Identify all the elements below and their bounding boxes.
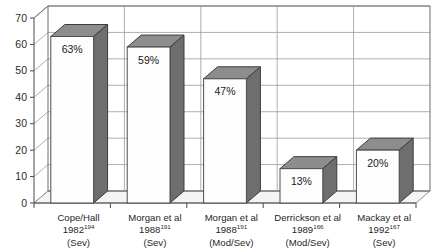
x-axis-label-reference: 191 xyxy=(160,223,171,230)
y-tick-label: 40 xyxy=(15,91,27,103)
gridline-depth xyxy=(34,85,48,97)
y-tick-label: 0 xyxy=(21,197,27,209)
x-axis-label-severity: (Sev) xyxy=(373,237,396,248)
y-tick-label: 70 xyxy=(15,12,27,24)
x-axis-label-author: Derrickson et al xyxy=(274,212,341,223)
bar-data-label: 59% xyxy=(138,54,159,66)
y-tick-label: 30 xyxy=(15,117,27,129)
x-axis-label-author: Cope/Hall xyxy=(57,212,99,223)
bar-data-label: 20% xyxy=(367,157,388,169)
x-axis-label-severity: (Mod/Sev) xyxy=(209,237,253,248)
bar-front-face xyxy=(127,47,170,203)
x-axis-label-severity: (Mod/Sev) xyxy=(286,237,330,248)
bar-group: 13% xyxy=(280,157,337,203)
gridline-depth xyxy=(34,138,48,150)
bar-side-face xyxy=(94,25,108,204)
x-axis-label-reference: 166 xyxy=(313,223,324,230)
bar-side-face xyxy=(399,138,413,203)
bar-data-label: 63% xyxy=(62,43,83,55)
bar-side-face xyxy=(246,67,260,203)
x-axis-label-reference: 167 xyxy=(390,223,401,230)
gridline-depth xyxy=(34,32,48,44)
bar-chart: 01020304050607063%Cope/Hall1982194(Sev)5… xyxy=(0,0,440,252)
bar-front-face xyxy=(51,37,94,204)
wall-edge-top xyxy=(34,6,48,18)
y-tick-label: 20 xyxy=(15,144,27,156)
x-axis-label-author: Mackay et al xyxy=(357,212,411,223)
chart-canvas: 01020304050607063%Cope/Hall1982194(Sev)5… xyxy=(0,0,440,252)
gridline-depth xyxy=(34,59,48,71)
y-tick-label: 10 xyxy=(15,170,27,182)
bar-data-label: 47% xyxy=(214,85,235,97)
x-axis-label-author: Morgan et al xyxy=(205,212,258,223)
bar-group: 20% xyxy=(356,138,413,203)
x-axis-label-year: 1988191 xyxy=(215,223,247,235)
bar-group: 63% xyxy=(51,25,108,204)
bar-group: 47% xyxy=(204,67,261,203)
x-axis-label-year: 1982194 xyxy=(63,223,95,235)
x-axis-label-year: 1992167 xyxy=(368,223,400,235)
x-axis-label-reference: 191 xyxy=(237,223,248,230)
bar-group: 59% xyxy=(127,35,184,203)
x-axis-label-year: 1989166 xyxy=(292,223,324,235)
gridline-depth xyxy=(34,112,48,124)
y-tick-label: 50 xyxy=(15,64,27,76)
x-axis-label-severity: (Sev) xyxy=(67,237,90,248)
x-axis-label-severity: (Sev) xyxy=(143,237,166,248)
bar-side-face xyxy=(170,35,184,203)
x-axis-label-author: Morgan et al xyxy=(128,212,181,223)
x-axis-label-year: 1988191 xyxy=(139,223,171,235)
gridline-depth xyxy=(34,165,48,177)
y-tick-label: 60 xyxy=(15,38,27,50)
bar-front-face xyxy=(204,79,247,203)
bar-data-label: 13% xyxy=(291,175,312,187)
x-axis-label-reference: 194 xyxy=(84,223,95,230)
